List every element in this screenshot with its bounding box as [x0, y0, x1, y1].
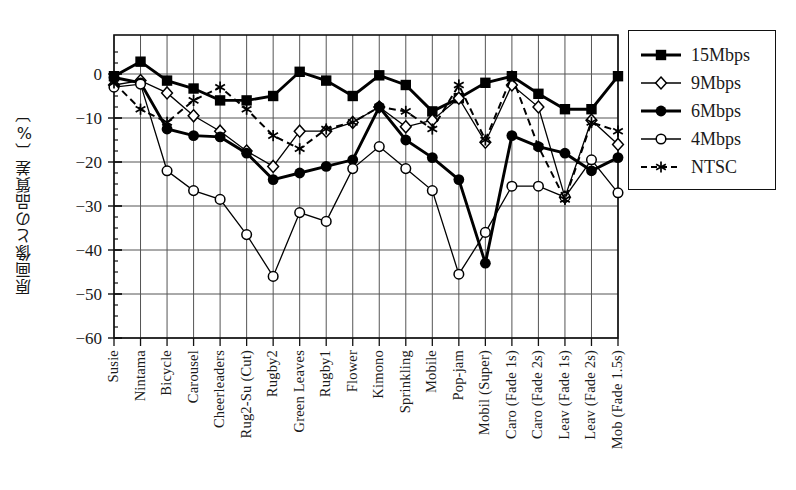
- y-axis-title-text: 原画像との品質差〔%〕: [13, 105, 37, 295]
- data-point-open-circle: [189, 186, 199, 196]
- data-point-filled-square: [613, 71, 623, 81]
- data-point-filled-square: [188, 83, 198, 93]
- legend-item: 15Mbps: [629, 41, 775, 69]
- series-15Mbps: [109, 56, 623, 116]
- data-point-filled-circle: [400, 135, 411, 146]
- data-point-open-diamond: [162, 87, 173, 99]
- series-6Mbps: [109, 72, 624, 268]
- data-point-asterisk: [136, 104, 146, 115]
- data-point-open-circle: [613, 188, 623, 198]
- legend-marker-filled-circle-icon: [639, 101, 683, 121]
- data-point-open-circle: [215, 195, 225, 205]
- data-point-open-circle: [242, 230, 252, 240]
- data-point-open-circle: [454, 269, 464, 279]
- data-point-filled-circle: [294, 168, 305, 179]
- data-point-open-circle: [428, 186, 438, 196]
- legend-item: 4Mbps: [629, 125, 775, 153]
- data-point-open-diamond: [400, 121, 411, 133]
- legend-item: 9Mbps: [629, 69, 775, 97]
- y-tick-label: −30: [75, 198, 102, 215]
- data-point-filled-square: [586, 104, 596, 114]
- data-point-filled-square: [294, 67, 304, 77]
- data-point-filled-square: [215, 95, 225, 105]
- data-point-filled-circle: [453, 174, 464, 185]
- data-point-filled-circle: [188, 130, 199, 141]
- data-point-filled-square: [135, 56, 145, 66]
- data-point-asterisk: [295, 143, 305, 154]
- legend-item: 6Mbps: [629, 97, 775, 125]
- data-point-filled-square: [348, 91, 358, 101]
- data-point-open-circle: [507, 181, 517, 191]
- data-point-open-diamond: [656, 77, 667, 89]
- legend-marker-open-diamond-icon: [639, 73, 683, 93]
- y-tick-label: −40: [75, 242, 102, 259]
- data-point-open-circle: [587, 155, 597, 165]
- data-point-open-circle: [268, 272, 278, 282]
- data-point-filled-square: [480, 78, 490, 88]
- data-point-open-circle: [374, 142, 384, 152]
- data-point-open-diamond: [188, 110, 199, 122]
- data-point-filled-circle: [321, 161, 332, 172]
- data-point-filled-circle: [268, 174, 279, 185]
- y-tick-label: −60: [75, 330, 102, 347]
- y-axis-minor-ticks: [108, 52, 122, 338]
- chart-legend: 15Mbps 9Mbps 6Mbps 4Mbps NTSC: [628, 30, 776, 190]
- x-axis-ticks: [114, 338, 618, 346]
- data-point-open-circle: [401, 164, 411, 174]
- y-tick-label: −50: [75, 286, 102, 303]
- legend-label: NTSC: [683, 157, 737, 178]
- legend-label: 9Mbps: [683, 73, 741, 94]
- legend-marker-filled-square-icon: [639, 45, 683, 65]
- data-point-open-circle: [136, 79, 146, 89]
- data-point-filled-square: [321, 75, 331, 85]
- data-point-filled-circle: [586, 165, 597, 176]
- data-point-open-circle: [656, 134, 666, 144]
- data-point-filled-circle: [506, 130, 517, 141]
- legend-label: 6Mbps: [683, 101, 741, 122]
- legend-marker-asterisk-icon: [639, 157, 683, 177]
- series-9Mbps: [109, 75, 624, 204]
- data-point-filled-circle: [427, 152, 438, 163]
- data-point-open-circle: [162, 166, 172, 176]
- data-point-filled-square: [374, 70, 384, 80]
- data-point-open-circle: [481, 228, 491, 238]
- data-point-asterisk: [613, 126, 623, 137]
- data-point-open-circle: [348, 164, 358, 174]
- data-point-filled-circle: [560, 148, 571, 159]
- data-point-open-circle: [295, 208, 305, 218]
- data-point-filled-circle: [613, 152, 624, 163]
- legend-item: NTSC: [629, 153, 775, 181]
- data-point-filled-square: [162, 75, 172, 85]
- chart-figure: 原画像との品質差〔%〕 0−10−20−30−40−50−60 SusieNin…: [0, 0, 796, 490]
- y-axis-tick-labels: 0−10−20−30−40−50−60: [46, 30, 108, 350]
- data-point-filled-circle: [241, 148, 252, 159]
- data-point-filled-circle: [480, 258, 491, 269]
- y-axis-title: 原画像との品質差〔%〕: [8, 60, 42, 340]
- y-tick-label: −20: [75, 154, 102, 171]
- legend-label: 15Mbps: [683, 45, 750, 66]
- data-point-asterisk: [215, 82, 225, 93]
- data-point-open-diamond: [533, 101, 544, 113]
- data-point-filled-square: [401, 80, 411, 90]
- data-point-filled-square: [656, 50, 666, 60]
- data-point-filled-square: [533, 89, 543, 99]
- data-point-filled-square: [268, 91, 278, 101]
- data-point-filled-circle: [656, 106, 667, 117]
- data-point-filled-circle: [215, 132, 226, 143]
- y-tick-label: −10: [75, 110, 102, 127]
- y-tick-label: 0: [94, 66, 103, 83]
- data-point-filled-square: [560, 104, 570, 114]
- legend-marker-open-circle-icon: [639, 129, 683, 149]
- data-point-asterisk: [427, 123, 437, 134]
- legend-label: 4Mbps: [683, 129, 741, 150]
- data-point-open-circle: [534, 181, 544, 191]
- data-point-open-circle: [321, 217, 331, 227]
